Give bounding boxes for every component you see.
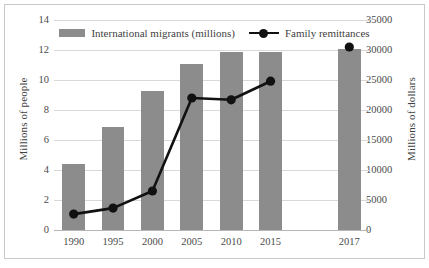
y-axis-left-tick-label: 12 — [39, 45, 50, 55]
y-axis-left-tick-label: 14 — [39, 15, 50, 25]
data-point-marker — [266, 77, 275, 86]
data-point-marker — [69, 210, 78, 219]
x-axis-tick-label: 1995 — [103, 236, 124, 247]
y-axis-left-tick-label: 2 — [44, 195, 49, 205]
x-axis-tick-label: 2017 — [339, 236, 360, 247]
y-axis-right-tick-label: 15000 — [366, 135, 392, 145]
y-axis-right-tick-label: 10000 — [366, 165, 392, 175]
x-axis-tick-label: 1990 — [63, 236, 84, 247]
y-axis-right-tick-label: 5000 — [366, 195, 387, 205]
plot-area — [54, 20, 369, 230]
data-point-marker — [227, 95, 236, 104]
y-axis-right-tick-label: 25000 — [366, 75, 392, 85]
x-axis-tick-label: 2015 — [260, 236, 281, 247]
chart-figure: Millions of people Millions of dollars 1… — [0, 0, 429, 268]
y-axis-left-ticks: 14121086420 — [23, 5, 49, 258]
y-axis-left-tick-label: 10 — [39, 75, 50, 85]
data-point-marker — [187, 93, 196, 102]
gridline — [54, 230, 369, 231]
y-axis-left-tick-label: 4 — [44, 165, 49, 175]
y-axis-right-tick-label: 35000 — [366, 15, 392, 25]
line-series-family-remittances — [54, 20, 369, 230]
y-axis-left-tick-label: 6 — [44, 135, 49, 145]
y-axis-right-tick-label: 30000 — [366, 45, 392, 55]
y-axis-left-tick-label: 0 — [44, 225, 49, 235]
x-axis-tick-label: 2010 — [221, 236, 242, 247]
x-axis-ticks: 1990199520002005201020152017 — [54, 236, 369, 254]
data-point-marker — [108, 204, 117, 213]
y-axis-right-tick-label: 20000 — [366, 105, 392, 115]
y-axis-left-tick-label: 8 — [44, 105, 49, 115]
chart-plot-frame: Millions of people Millions of dollars 1… — [4, 4, 425, 259]
y-axis-right-ticks: 35000300002500020000150001000050000 — [366, 5, 408, 258]
line-path — [74, 81, 271, 214]
x-axis-tick-label: 2005 — [181, 236, 202, 247]
x-axis-tick-label: 2000 — [142, 236, 163, 247]
data-point-marker — [148, 186, 157, 195]
data-point-marker — [345, 42, 354, 51]
